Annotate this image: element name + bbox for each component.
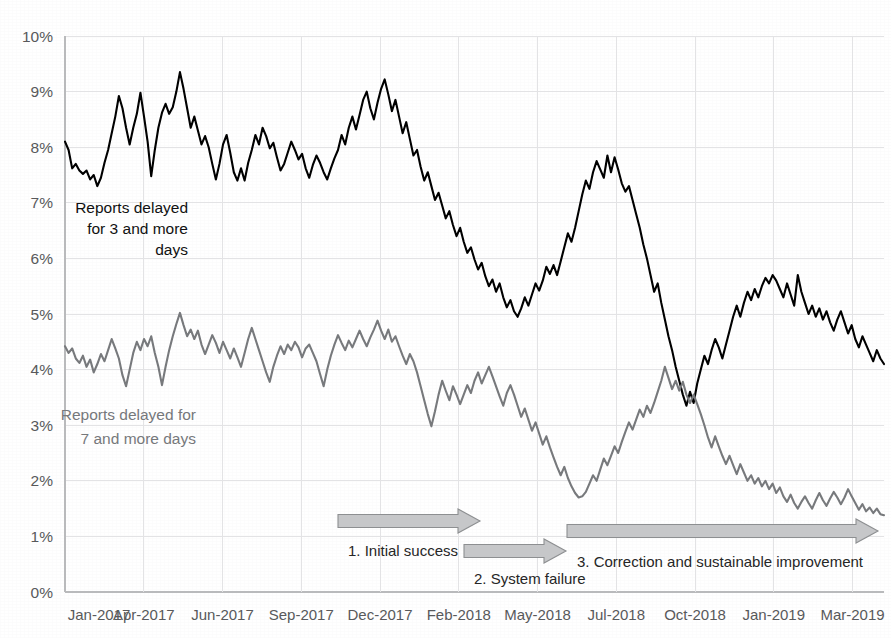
series-label-delayed-7-days: Reports delayed for bbox=[61, 406, 196, 423]
y-axis-tick-label: 8% bbox=[31, 139, 54, 156]
x-axis-tick-label: Dec-2017 bbox=[347, 606, 412, 623]
annotation-label-phase-1: 1. Initial success bbox=[348, 542, 458, 559]
x-axis-tick-label: Jul-2018 bbox=[587, 606, 645, 623]
delayed-reports-line-chart: 0%1%2%3%4%5%6%7%8%9%10% Jan-2017Apr-2017… bbox=[0, 0, 891, 638]
series-label-delayed-3-days: for 3 and more bbox=[87, 220, 188, 237]
series-label-delayed-3-days: days bbox=[155, 241, 188, 258]
y-axis-tick-label: 9% bbox=[31, 83, 54, 100]
y-axis-tick-label: 4% bbox=[31, 361, 54, 378]
x-axis-tick-label: May-2018 bbox=[504, 606, 571, 623]
y-axis-tick-label: 6% bbox=[31, 250, 54, 267]
x-axis-tick-label: Feb-2018 bbox=[427, 606, 491, 623]
annotation-label-phase-2: 2. System failure bbox=[474, 570, 586, 587]
y-axis-tick-label: 1% bbox=[31, 528, 54, 545]
annotation-arrow-phase-2 bbox=[464, 539, 566, 563]
y-axis-labels-group: 0%1%2%3%4%5%6%7%8%9%10% bbox=[22, 28, 53, 601]
series-label-delayed-3-days: Reports delayed bbox=[75, 199, 188, 216]
y-axis-tick-label: 7% bbox=[31, 194, 54, 211]
y-axis-tick-label: 10% bbox=[22, 28, 53, 45]
x-axis-labels-group: Jan-2017Apr-2017Jun-2017Sep-2017Dec-2017… bbox=[68, 606, 885, 623]
y-axis-tick-label: 2% bbox=[31, 472, 54, 489]
x-axis-tick-label: Apr-2017 bbox=[113, 606, 175, 623]
x-axis-tick-label: Jun-2017 bbox=[191, 606, 254, 623]
annotation-arrow-phase-1 bbox=[338, 509, 480, 533]
series-line-delayed-3-days bbox=[65, 72, 884, 406]
y-axis-tick-label: 0% bbox=[31, 584, 54, 601]
series-lines-group bbox=[65, 72, 884, 515]
y-axis-tick-label: 3% bbox=[31, 417, 54, 434]
series-label-delayed-7-days: 7 and more days bbox=[81, 430, 197, 447]
gridlines-group bbox=[65, 36, 884, 592]
annotation-label-phase-3: 3. Correction and sustainable improvemen… bbox=[577, 553, 864, 570]
phase-annotations-group: 1. Initial success2. System failure3. Co… bbox=[338, 509, 878, 587]
x-axis-tick-label: Oct-2018 bbox=[664, 606, 726, 623]
x-axis-tick-label: Jan-2019 bbox=[742, 606, 805, 623]
y-axis-tick-label: 5% bbox=[31, 306, 54, 323]
annotation-arrow-phase-3 bbox=[567, 519, 878, 543]
x-axis-tick-label: Sep-2017 bbox=[269, 606, 334, 623]
x-axis-tick-label: Mar-2019 bbox=[820, 606, 884, 623]
